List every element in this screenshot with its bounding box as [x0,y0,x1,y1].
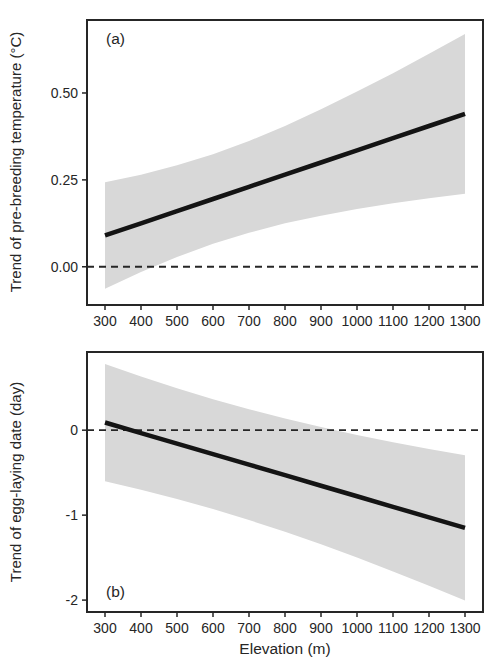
x-tick-label-a: 300 [93,313,117,329]
x-tick-label-a: 900 [309,313,333,329]
x-tick-label-a: 500 [165,313,189,329]
x-tick-label-b: 700 [237,620,261,636]
chart-canvas: 30040050060070080090010001100120013000.0… [0,0,500,669]
x-tick-label-a: 1200 [413,313,444,329]
y-tick-label-b: 0 [70,422,78,438]
panel-a-y-axis-label: Trend of pre-breeding temperature (°C) [7,32,24,293]
y-tick-label-a: 0.50 [51,85,78,101]
confidence-band-b [105,364,465,601]
x-tick-label-b: 1100 [378,620,408,636]
x-tick-label-b: 300 [93,620,117,636]
x-tick-label-a: 1100 [378,313,408,329]
x-tick-label-b: 400 [129,620,153,636]
y-tick-label-a: 0.25 [51,172,78,188]
panel-a: 30040050060070080090010001100120013000.0… [51,20,483,329]
x-tick-label-b: 1200 [413,620,444,636]
panel-b-letter: (b) [106,583,125,601]
x-tick-label-a: 1000 [341,313,372,329]
x-tick-label-b: 1000 [341,620,372,636]
x-tick-label-b: 900 [309,620,333,636]
y-tick-label-b: -1 [66,507,79,523]
x-tick-label-b: 500 [165,620,189,636]
x-tick-label-a: 1300 [449,313,480,329]
x-axis-label: Elevation (m) [239,640,330,658]
x-tick-label-b: 1300 [449,620,480,636]
y-tick-label-a: 0.00 [51,259,78,275]
y-tick-label-b: -2 [66,592,79,608]
two-panel-elevation-figure: 30040050060070080090010001100120013000.0… [0,0,500,669]
x-tick-label-a: 800 [273,313,297,329]
x-tick-label-a: 700 [237,313,261,329]
panel-b: 30040050060070080090010001100120013000-1… [66,352,483,636]
confidence-band-a [105,34,465,289]
x-tick-label-b: 600 [201,620,225,636]
panel-b-y-axis-label: Trend of egg-laying date (day) [7,382,24,582]
x-tick-label-a: 400 [129,313,153,329]
x-tick-label-b: 800 [273,620,297,636]
panel-a-letter: (a) [106,30,125,48]
x-tick-label-a: 600 [201,313,225,329]
